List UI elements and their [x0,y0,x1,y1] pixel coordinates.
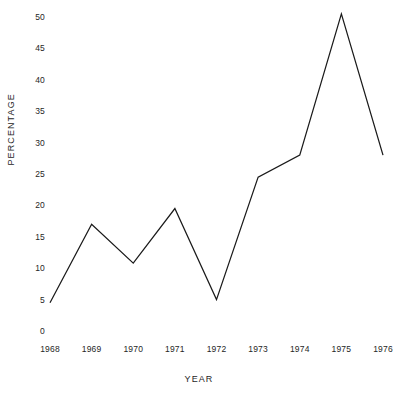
y-tick-label: 45 [35,44,45,53]
data-series-line [50,14,383,303]
x-tick-label: 1968 [40,345,60,354]
plot-area [0,0,398,400]
y-tick-label: 30 [35,138,45,147]
y-tick-label: 20 [35,201,45,210]
y-tick-label: 35 [35,107,45,116]
x-tick-label: 1971 [165,345,185,354]
y-tick-label: 25 [35,170,45,179]
x-tick-label: 1976 [373,345,393,354]
x-tick-label: 1972 [207,345,227,354]
y-tick-label: 50 [35,13,45,22]
x-tick-label: 1969 [82,345,102,354]
y-tick-label: 15 [35,233,45,242]
x-tick-label: 1975 [332,345,352,354]
x-tick-label: 1970 [123,345,143,354]
y-tick-label: 40 [35,76,45,85]
y-tick-label: 10 [35,264,45,273]
line-chart: PERCENTAGE 05101520253035404550 19681969… [0,0,398,400]
x-tick-label: 1973 [248,345,268,354]
y-tick-label: 5 [40,295,45,304]
y-axis-tick-labels: 05101520253035404550 [0,0,45,400]
y-tick-label: 0 [40,327,45,336]
x-axis-title: YEAR [0,375,398,384]
x-tick-label: 1974 [290,345,310,354]
x-axis-tick-labels: 196819691970197119721973197419751976 [0,345,398,365]
